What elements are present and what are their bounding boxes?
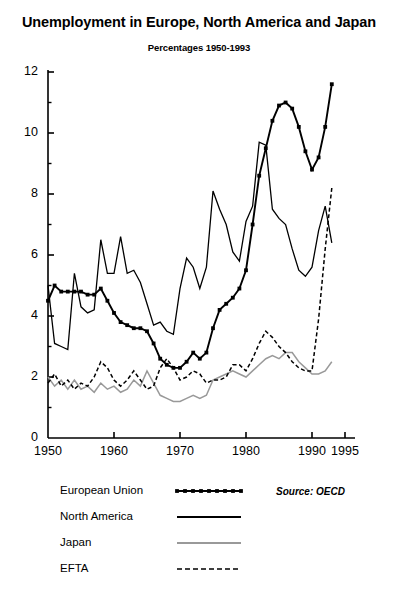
series-marker bbox=[251, 223, 255, 227]
legend-marker bbox=[199, 489, 203, 493]
series-marker bbox=[106, 299, 110, 303]
legend-label: Japan bbox=[60, 536, 91, 548]
series-marker bbox=[53, 284, 57, 288]
series-marker bbox=[185, 360, 189, 364]
series-marker bbox=[330, 82, 334, 86]
series-marker bbox=[145, 329, 149, 333]
x-tick-label: 1970 bbox=[157, 444, 203, 458]
series-marker bbox=[191, 351, 195, 355]
legend-label: European Union bbox=[60, 484, 143, 496]
legend-swatch-dashed bbox=[175, 560, 243, 578]
source-note: Source: OECD bbox=[276, 486, 345, 497]
x-tick-label: 1995 bbox=[322, 444, 368, 458]
legend-label: EFTA bbox=[60, 562, 89, 574]
legend-swatch-solid bbox=[175, 508, 243, 526]
y-tick-label: 0 bbox=[12, 430, 38, 444]
series-marker bbox=[79, 290, 83, 294]
legend-marker bbox=[191, 489, 195, 493]
series-marker bbox=[238, 287, 242, 291]
series-marker bbox=[139, 326, 143, 330]
series-marker bbox=[310, 168, 314, 172]
series-line bbox=[48, 353, 332, 402]
y-tick-label: 12 bbox=[12, 64, 38, 78]
legend-label: North America bbox=[60, 510, 133, 522]
chart-figure: Unemployment in Europe, North America an… bbox=[0, 0, 398, 590]
series-marker bbox=[244, 268, 248, 272]
legend-swatch-solid bbox=[175, 534, 243, 552]
plot-area: 024681012 195019601970198019901995 bbox=[0, 0, 398, 470]
x-tick-label: 1960 bbox=[91, 444, 137, 458]
series-marker bbox=[284, 101, 288, 105]
series-line bbox=[48, 188, 332, 389]
series-marker bbox=[290, 107, 294, 111]
y-tick-label: 6 bbox=[12, 247, 38, 261]
legend-marker bbox=[223, 489, 227, 493]
series-marker bbox=[304, 149, 308, 153]
chart-svg bbox=[0, 0, 398, 470]
series-marker bbox=[271, 119, 275, 123]
series-marker bbox=[211, 326, 215, 330]
series-marker bbox=[297, 125, 301, 129]
series-marker bbox=[317, 156, 321, 160]
legend-marker bbox=[231, 489, 235, 493]
series-marker bbox=[125, 323, 129, 327]
series-marker bbox=[152, 342, 156, 346]
y-tick-label: 2 bbox=[12, 369, 38, 383]
series-marker bbox=[323, 125, 327, 129]
series-marker bbox=[257, 174, 261, 178]
series-marker bbox=[277, 104, 281, 108]
series-marker bbox=[218, 308, 222, 312]
series-marker bbox=[99, 287, 103, 291]
series-marker bbox=[59, 290, 63, 294]
series-marker bbox=[198, 357, 202, 361]
series-marker bbox=[158, 357, 162, 361]
legend-marker bbox=[215, 489, 219, 493]
x-tick-label: 1980 bbox=[223, 444, 269, 458]
series-marker bbox=[112, 311, 116, 315]
legend-marker bbox=[183, 489, 187, 493]
series-marker bbox=[119, 320, 123, 324]
series-marker bbox=[205, 351, 209, 355]
y-tick-label: 8 bbox=[12, 186, 38, 200]
series-marker bbox=[132, 326, 136, 330]
series-marker bbox=[231, 296, 235, 300]
axis-lines bbox=[48, 70, 355, 438]
y-tick-label: 4 bbox=[12, 308, 38, 322]
chart-legend: European UnionNorth AmericaJapanEFTA bbox=[0, 482, 398, 590]
series-marker bbox=[224, 302, 228, 306]
x-tick-label: 1950 bbox=[25, 444, 71, 458]
series-marker bbox=[165, 363, 169, 367]
legend-swatch-line-markers bbox=[175, 482, 243, 500]
series-lines bbox=[46, 82, 334, 401]
y-tick-label: 10 bbox=[12, 125, 38, 139]
legend-marker bbox=[175, 489, 179, 493]
series-line bbox=[48, 84, 332, 368]
legend-marker bbox=[207, 489, 211, 493]
series-marker bbox=[66, 290, 70, 294]
series-line bbox=[48, 142, 332, 349]
series-marker bbox=[178, 366, 182, 370]
legend-marker bbox=[239, 489, 243, 493]
series-marker bbox=[86, 293, 90, 297]
